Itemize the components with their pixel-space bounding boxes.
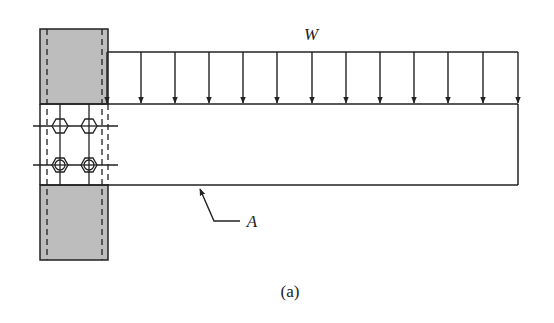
member-leader (200, 189, 240, 221)
cantilever-beam-diagram: W A (a) (0, 0, 554, 323)
beam-member (40, 104, 518, 185)
member-label: A (246, 212, 258, 231)
load-label: W (304, 25, 320, 44)
bolt-group (33, 104, 118, 185)
figure-caption: (a) (281, 282, 300, 301)
distributed-load (107, 52, 518, 103)
support-column (40, 29, 108, 260)
